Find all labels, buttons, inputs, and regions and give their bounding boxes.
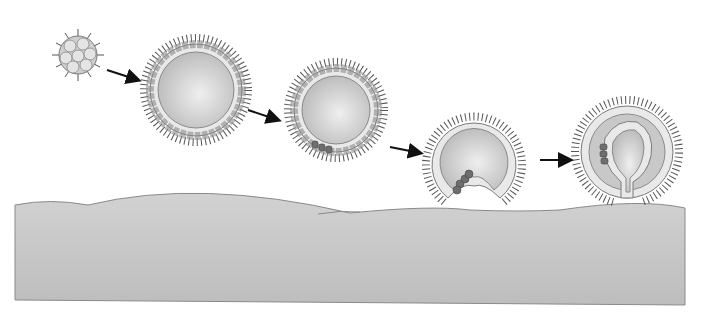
- arrow-icon: [390, 147, 420, 153]
- early-gastrula-stage: [426, 117, 522, 202]
- substrate: [15, 193, 685, 305]
- gastrula-stage: [575, 100, 679, 202]
- blastula-stage: [144, 38, 248, 142]
- morula-stage: [52, 29, 104, 81]
- blastula-marked-stage: [288, 62, 384, 158]
- arrow-icon: [248, 110, 278, 120]
- development-diagram: [0, 0, 726, 316]
- arrow-icon: [107, 70, 138, 80]
